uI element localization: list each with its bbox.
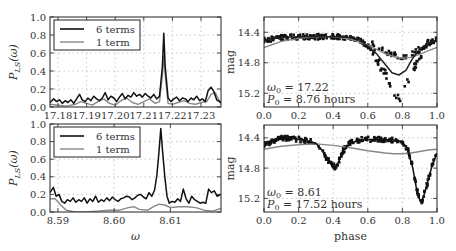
y-tick-label: 0.0 [30,207,46,218]
y-tick-label: 0.2 [30,189,46,200]
y-tick-label: 1.0 [30,119,46,130]
x-tick-label: 17.21 [129,110,158,121]
annotation: ω0 = 17.22P0 = 8.76 hours [266,81,356,107]
x-tick-label: 0.4 [325,110,341,121]
panel-top-left: 17.1817.1917.2017.2117.2217.230.00.20.40… [7,12,221,122]
y-tick-label: 1.0 [30,12,46,23]
x-tick-label: 8.59 [47,215,69,226]
legend-entry: 6 terms [96,131,135,142]
x-tick-label: 17.20 [101,110,130,121]
y-axis-label: PLS(ω) [7,150,22,187]
y-tick-label: 15.2 [238,193,260,204]
svg-text:P0 = 17.52 hours: P0 = 17.52 hours [266,198,363,212]
y-tick-label: 15.2 [238,88,260,99]
y-tick-label: 0.4 [30,66,46,77]
annotation: ω0 = 8.61P0 = 17.52 hours [266,186,363,212]
x-tick-label: 0.2 [291,110,307,121]
y-tick-label: 0.0 [30,102,46,113]
y-tick-label: 0.8 [30,30,46,41]
x-tick-label: 17.18 [44,110,73,121]
y-tick-label: 14.8 [238,163,260,174]
y-axis-label: mag [224,50,237,74]
legend: 6 terms1 term [54,20,140,50]
x-tick-label: 8.61 [159,215,181,226]
x-tick-label: 0.0 [256,110,272,121]
y-tick-label: 0.6 [30,154,46,165]
x-tick-label: 0.2 [291,215,307,226]
y-tick-label: 0.2 [30,84,46,95]
y-tick-label: 14.4 [238,27,260,38]
panel-bottom-left: 8.598.608.610.00.20.40.60.81.0PLS(ω)ω6 t… [7,119,221,244]
x-tick-label: 0.0 [256,215,272,226]
y-tick-label: 14.4 [238,132,260,143]
x-tick-label: 1.0 [429,215,445,226]
x-tick-label: 17.19 [72,110,101,121]
y-tick-label: 0.4 [30,171,46,182]
x-tick-label: 0.8 [394,110,410,121]
legend-entry: 1 term [96,37,130,48]
legend: 6 terms1 term [54,127,140,157]
legend-entry: 1 term [96,144,130,155]
x-tick-label: 0.4 [325,215,341,226]
y-axis-label: PLS(ω) [7,44,22,81]
x-tick-label: 0.6 [360,215,376,226]
y-axis-label: mag [224,156,237,180]
x-tick-label: 17.23 [187,110,216,121]
svg-text:P0 = 8.76 hours: P0 = 8.76 hours [266,93,356,107]
x-tick-label: 1.0 [429,110,445,121]
x-axis-label: ω [131,230,140,243]
y-tick-label: 0.6 [30,48,46,59]
x-axis-label: phase [334,230,367,243]
x-tick-label: 0.8 [394,215,410,226]
y-tick-label: 0.8 [30,136,46,147]
figure: 17.1817.1917.2017.2117.2217.230.00.20.40… [0,0,456,251]
panel-bottom-right: 0.00.20.40.60.81.014.414.815.2magphaseω0… [224,125,445,243]
x-tick-label: 17.22 [158,110,187,121]
x-tick-label: 8.60 [103,215,125,226]
x-tick-label: 0.6 [360,110,376,121]
legend-entry: 6 terms [96,24,135,35]
y-tick-label: 14.8 [238,57,260,68]
panel-top-right: 0.00.20.40.60.81.014.414.815.2magω0 = 17… [224,17,445,121]
